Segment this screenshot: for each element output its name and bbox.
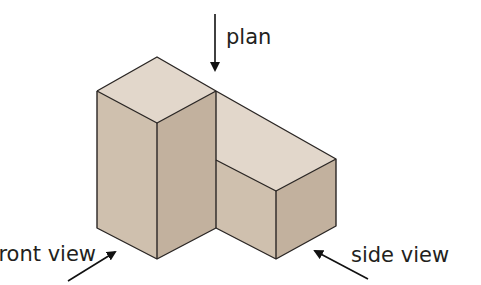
side-view-label: side view	[351, 245, 449, 266]
plan-label: plan	[226, 27, 271, 48]
front-view-label: front view	[0, 244, 96, 265]
diagram-canvas: plan front view side view	[0, 0, 481, 285]
